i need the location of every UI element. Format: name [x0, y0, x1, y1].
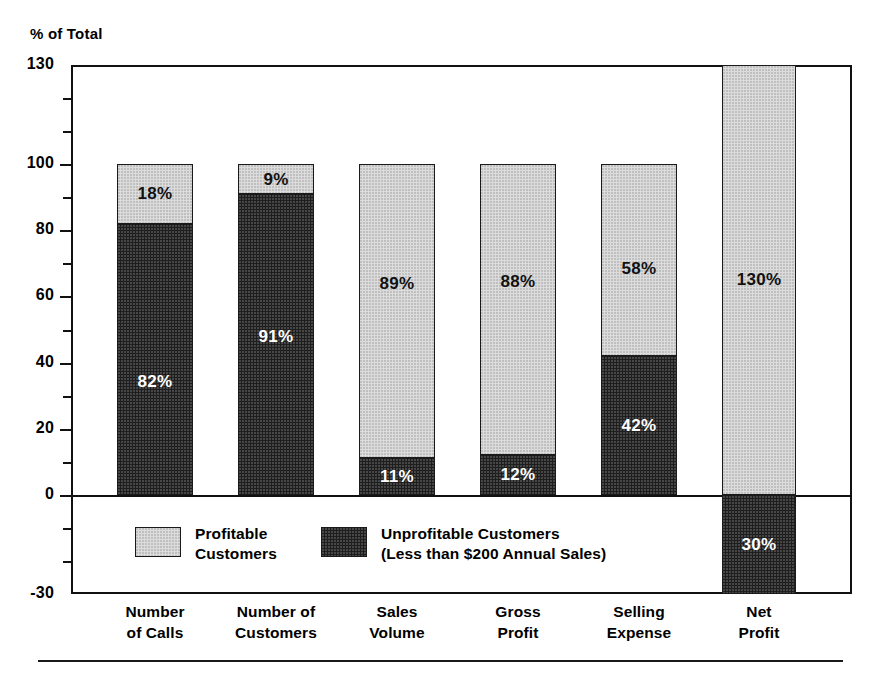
- bar-segment-value-label: 130%: [737, 271, 782, 288]
- y-axis-tick-label: 60: [36, 286, 54, 304]
- bar-column[interactable]: 91%9%: [238, 65, 314, 594]
- y-axis-minor-tick: [63, 528, 73, 530]
- legend-label-unprofitable: Unprofitable Customers (Less than $200 A…: [381, 524, 606, 565]
- bar-segment-value-label: 42%: [622, 417, 657, 434]
- bar-segment-value-label: 91%: [259, 328, 294, 345]
- bar-segment-value-label: 58%: [622, 260, 657, 277]
- bar-segment-profitable[interactable]: 89%: [359, 164, 435, 458]
- x-axis-label: NetProfit: [679, 602, 839, 643]
- bar-segment-profitable[interactable]: 18%: [117, 164, 193, 224]
- y-axis-tick-label: 80: [36, 220, 54, 238]
- y-axis-tick-label: -30: [30, 584, 54, 602]
- legend-item-profitable: Profitable Customers: [135, 524, 277, 565]
- y-axis-major-tick: [60, 495, 73, 497]
- y-axis-major-tick: [60, 230, 73, 232]
- y-axis-major-tick: [60, 296, 73, 298]
- y-axis-minor-tick: [63, 561, 73, 563]
- bar-segment-unprofitable[interactable]: 91%: [238, 194, 314, 495]
- legend-swatch-unprofitable-icon: [321, 527, 367, 557]
- y-axis-tick-label: 0: [45, 485, 54, 503]
- bar-segment-unprofitable[interactable]: 82%: [117, 224, 193, 495]
- y-axis-minor-tick: [63, 197, 73, 199]
- x-axis-label-line2: of Calls: [127, 624, 184, 641]
- legend-label-profitable-line2: Customers: [195, 545, 277, 562]
- bar-segment-unprofitable[interactable]: 12%: [480, 455, 556, 495]
- bar-segment-value-label: 9%: [263, 171, 288, 188]
- y-axis-major-tick: [60, 429, 73, 431]
- y-axis-tick-label: 40: [36, 353, 54, 371]
- bar-segment-profitable[interactable]: 130%: [722, 65, 796, 495]
- legend-label-profitable: Profitable Customers: [195, 524, 277, 565]
- y-axis-major-tick: [60, 164, 73, 166]
- y-axis-minor-tick: [63, 131, 73, 133]
- y-axis-major-tick: [60, 363, 73, 365]
- y-axis-tick-label: 100: [27, 154, 54, 172]
- x-axis-label-line2: Expense: [607, 624, 671, 641]
- x-axis-label-line2: Customers: [235, 624, 317, 641]
- bar-column[interactable]: 11%89%: [359, 65, 435, 594]
- bar-column[interactable]: 82%18%: [117, 65, 193, 594]
- y-axis-minor-tick: [63, 330, 73, 332]
- bar-segment-profitable[interactable]: 88%: [480, 164, 556, 455]
- bar-segment-unprofitable[interactable]: 11%: [359, 458, 435, 494]
- x-axis-label-line1: Number of: [237, 603, 315, 620]
- legend-label-profitable-line1: Profitable: [195, 525, 267, 542]
- bottom-divider: [38, 660, 843, 662]
- x-axis-label-line1: Sales: [376, 603, 417, 620]
- bar-column[interactable]: 12%88%: [480, 65, 556, 594]
- bar-segment-value-label: 82%: [138, 373, 173, 390]
- chart-figure: % of Total 130100806040200-30 82%18%91%9…: [0, 0, 881, 675]
- y-axis-tick-label: 130: [27, 55, 54, 73]
- bar-segment-value-label: 88%: [501, 273, 536, 290]
- bar-column[interactable]: 42%58%: [601, 65, 677, 594]
- bar-segment-value-label: 18%: [138, 185, 173, 202]
- legend-label-unprofitable-line1: Unprofitable Customers: [381, 525, 560, 542]
- bar-segment-profitable[interactable]: 58%: [601, 164, 677, 356]
- bar-segment-value-label: 12%: [501, 466, 536, 483]
- y-axis-title: % of Total: [30, 25, 103, 42]
- x-axis-label-line1: Gross: [495, 603, 540, 620]
- bar-segment-unprofitable[interactable]: 30%: [722, 495, 796, 594]
- legend-item-unprofitable: Unprofitable Customers (Less than $200 A…: [321, 524, 606, 565]
- x-axis-label-line2: Volume: [369, 624, 424, 641]
- y-axis-minor-tick: [63, 396, 73, 398]
- legend-swatch-profitable-icon: [135, 527, 181, 557]
- y-axis-minor-tick: [63, 263, 73, 265]
- y-axis-tick-label: 20: [36, 419, 54, 437]
- x-axis-label-line1: Number: [125, 603, 184, 620]
- bar-column[interactable]: 130%30%: [722, 65, 796, 594]
- legend-label-unprofitable-line2: (Less than $200 Annual Sales): [381, 545, 606, 562]
- bar-segment-unprofitable[interactable]: 42%: [601, 356, 677, 495]
- y-axis-minor-tick: [63, 462, 73, 464]
- bar-segment-value-label: 11%: [380, 468, 414, 485]
- x-axis-label-line2: Profit: [738, 624, 779, 641]
- x-axis-label-line2: Profit: [497, 624, 538, 641]
- x-axis-label-line1: Selling: [613, 603, 665, 620]
- bar-segment-value-label: 89%: [380, 275, 415, 292]
- x-axis-label-line1: Net: [746, 603, 771, 620]
- chart-legend: Profitable Customers Unprofitable Custom…: [135, 524, 606, 565]
- bar-segment-profitable[interactable]: 9%: [238, 164, 314, 194]
- y-axis-minor-tick: [63, 98, 73, 100]
- bar-segment-value-label: 30%: [742, 536, 777, 553]
